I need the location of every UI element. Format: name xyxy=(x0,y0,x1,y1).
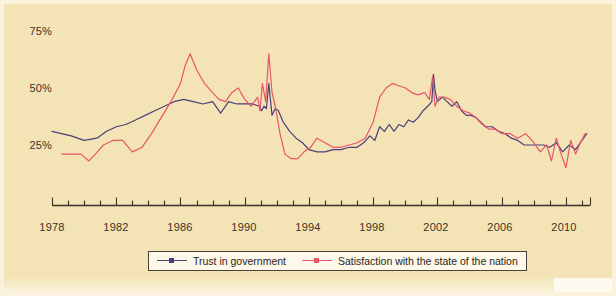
xtick-label-2006: 2006 xyxy=(480,221,520,233)
series-line-satisfaction xyxy=(62,54,586,168)
xtick-label-1994: 1994 xyxy=(288,221,328,233)
xtick-label-2010: 2010 xyxy=(544,221,584,233)
xtick-label-1986: 1986 xyxy=(160,221,200,233)
page-bottom-band xyxy=(0,278,616,296)
legend-label-trust: Trust in government xyxy=(193,255,286,267)
legend-entry-satisfaction: Satisfaction with the state of the natio… xyxy=(302,255,518,267)
xtick-label-1982: 1982 xyxy=(96,221,136,233)
ytick-label-50: 50% xyxy=(18,82,52,94)
axis-layer xyxy=(52,198,591,206)
chart-figure: 75% 50% 25% 1978 1982 1986 1990 1994 199… xyxy=(0,0,616,296)
legend-label-satisfaction: Satisfaction with the state of the natio… xyxy=(338,255,518,267)
ytick-label-75: 75% xyxy=(18,25,52,37)
xtick-label-2002: 2002 xyxy=(416,221,456,233)
legend-line-marker-icon xyxy=(157,256,187,266)
legend-line-marker-icon xyxy=(302,256,332,266)
legend-entry-trust: Trust in government xyxy=(157,255,286,267)
page-bottom-band-right xyxy=(554,278,616,296)
chart-legend: Trust in government Satisfaction with th… xyxy=(148,251,527,271)
xtick-label-1990: 1990 xyxy=(224,221,264,233)
ytick-label-25: 25% xyxy=(18,139,52,151)
xtick-label-1998: 1998 xyxy=(352,221,392,233)
xtick-label-1978: 1978 xyxy=(32,221,72,233)
series-layer xyxy=(52,54,587,168)
